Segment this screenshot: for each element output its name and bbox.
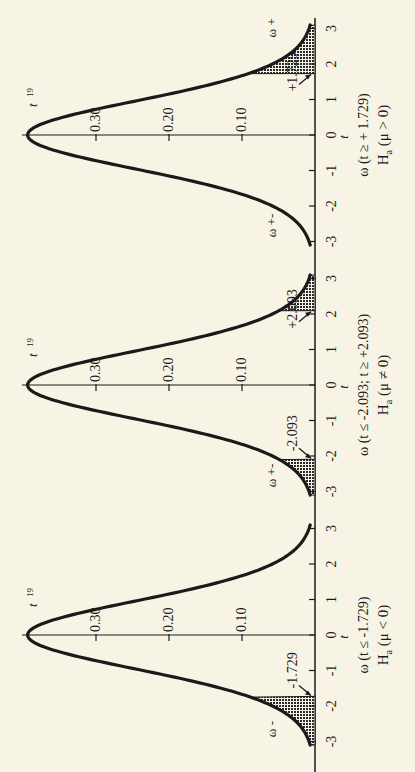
critical-value-label-left: -1.729 [285,652,300,688]
chart-panel-2: 0.100.200.30-3-2-10123tt19+2.093-2.093ω … [22,275,394,497]
t-tick-label: 3 [324,525,339,532]
critical-value-label-right: +1.729 [285,52,300,91]
critical-value-label-right: +2.093 [285,289,300,328]
t-tick-label: 3 [324,25,339,32]
t-tick-label: -1 [324,165,339,177]
omega-label-bottom: ω +- [264,214,279,237]
critical-value-label-left: -2.093 [285,415,300,451]
t-tick-label: 1 [324,96,339,103]
t-tick-label: -1 [324,415,339,427]
t-tick-label: -3 [324,486,339,498]
t-tick-label: -3 [324,236,339,248]
t-axis-label: t [336,385,351,389]
region-caption: ω (t ≤ -2.093; t ≥ +2.093) [356,314,372,456]
density-tick-label: 0.10 [234,108,249,133]
t-tick-label: -2 [324,450,339,462]
t-tick-label: -3 [324,736,339,748]
t-tick-label: 1 [324,596,339,603]
density-tick-label: 0.10 [234,358,249,383]
hypothesis-caption: Ha (μ ≠ 0) [375,355,394,415]
distribution-label: t [25,603,40,607]
distribution-df: 19 [25,338,35,348]
t-axis-label: t [336,135,351,139]
density-tick-label: 0.10 [234,608,249,633]
distribution-df: 19 [25,88,35,98]
chart-panel-1: 0.100.200.30-3-2-10123tt19+1.729ω +ω +-ω… [22,18,394,247]
t-tick-label: -2 [324,200,339,212]
t-distribution-figure: 0.100.200.30-3-2-10123tt19+1.729ω +ω +-ω… [0,0,415,772]
t-tick-label: 3 [324,275,339,282]
density-tick-label: 0.20 [161,608,176,633]
t-tick-label: 1 [324,346,339,353]
chart-panel-3: 0.100.200.30-3-2-10123tt19-1.729ω -ω (t … [22,525,394,747]
t-tick-label: -1 [324,665,339,677]
t-tick-label: 2 [324,311,339,318]
rejection-region [248,25,315,74]
density-tick-label: 0.20 [161,108,176,133]
distribution-label: t [25,103,40,107]
density-tick-label: 0.20 [161,358,176,383]
t-tick-label: -2 [324,700,339,712]
omega-label-bottom: ω - [264,721,279,737]
hypothesis-caption: Ha (μ > 0) [375,105,394,166]
region-caption: ω (t ≥ + 1.729) [356,93,372,177]
hypothesis-caption: Ha (μ < 0) [375,605,394,666]
distribution-df: 19 [25,588,35,598]
t-tick-label: 2 [324,61,339,68]
t-tick-label: 2 [324,561,339,568]
omega-label-top: ω + [264,18,279,37]
omega-label-bottom: ω +- [264,464,279,487]
t-axis-label: t [336,635,351,639]
region-caption: ω (t ≤ -1.729) [356,596,372,673]
distribution-label: t [25,353,40,357]
rejection-region [251,696,315,745]
